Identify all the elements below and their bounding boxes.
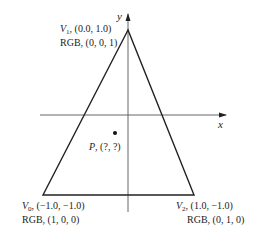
point-p-dot <box>113 131 117 135</box>
triangle <box>43 30 194 195</box>
point-p-name: P <box>89 141 95 152</box>
vertex-v2-coords: (1.0, −1.0) <box>191 200 233 211</box>
point-p-label: P, (?, ?) <box>89 141 121 152</box>
vertex-v1-sub: 1 <box>66 28 70 36</box>
vertex-v1-label: V1, (0.0, 1.0) <box>60 23 111 38</box>
vertex-v0-coords: (−1.0, −1.0) <box>37 200 85 211</box>
vertex-v0-label: V0, (−1.0, −1.0) <box>22 200 85 215</box>
vertex-v0-rgb: RGB, (1, 0, 0) <box>22 214 79 225</box>
point-p-coords: (?, ?) <box>100 141 121 152</box>
vertex-v2-sub: 2 <box>182 205 186 213</box>
vertex-v1-coords: (0.0, 1.0) <box>75 23 112 34</box>
vertex-v2-label: V2, (1.0, −1.0) <box>176 200 233 215</box>
vertex-v2-rgb: RGB, (0, 1, 0) <box>187 214 244 225</box>
y-axis-label: y <box>117 10 122 22</box>
triangle-diagram: y x V1, (0.0, 1.0) RGB, (0, 0, 1) P, (?,… <box>0 0 255 235</box>
vertex-v0-sub: 0 <box>28 205 32 213</box>
x-axis-label: x <box>218 118 223 130</box>
vertex-v1-rgb: RGB, (0, 0, 1) <box>60 37 117 48</box>
